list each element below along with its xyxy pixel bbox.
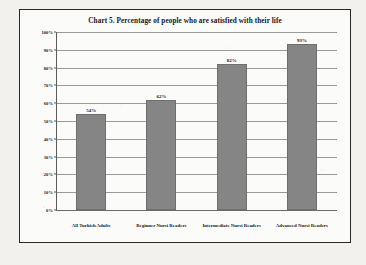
- y-axis-tick-label: 30%: [44, 154, 53, 159]
- y-axis-tick-label: 0%: [46, 208, 53, 213]
- bar: 62%: [146, 100, 176, 210]
- bar: 82%: [217, 64, 247, 210]
- chart-figure-frame: Chart 5. Percentage of people who are sa…: [19, 9, 351, 243]
- plot-area: 100%90%80%70%60%50%40%30%20%10%0% 54%62%…: [56, 32, 337, 210]
- bar-value-label: 82%: [227, 58, 237, 63]
- bar-value-label: 54%: [86, 108, 96, 113]
- bar-value-label: 62%: [156, 94, 166, 99]
- y-axis-tick-label: 20%: [44, 172, 53, 177]
- y-axis-tick-label: 100%: [42, 30, 53, 35]
- chart-title: Chart 5. Percentage of people who are sa…: [20, 17, 350, 25]
- y-axis-tick-label: 40%: [44, 136, 53, 141]
- x-axis-category-label: Advanced Nursi Readers: [267, 223, 337, 228]
- bar-slot: 54%: [56, 32, 126, 210]
- bar: 93%: [287, 44, 317, 210]
- y-axis-tick-label: 90%: [44, 47, 53, 52]
- x-axis-category-label: Beginner Nursi Readers: [126, 223, 196, 228]
- bar-slot: 62%: [126, 32, 196, 210]
- bar-slot: 93%: [267, 32, 337, 210]
- bar-value-label: 93%: [297, 38, 307, 43]
- bars-group: 54%62%82%93%: [56, 32, 337, 210]
- bar-slot: 82%: [197, 32, 267, 210]
- y-axis-tick-label: 60%: [44, 101, 53, 106]
- gridline: [56, 210, 337, 211]
- x-axis-category-label: Intermediate Nursi Readers: [197, 223, 267, 228]
- y-axis-tick-label: 50%: [44, 119, 53, 124]
- x-axis-category-label: All Turkish Adults: [56, 223, 126, 228]
- x-axis-category-labels: All Turkish AdultsBeginner Nursi Readers…: [56, 223, 337, 228]
- y-axis-tick-label: 10%: [44, 190, 53, 195]
- y-axis-tick-label: 70%: [44, 83, 53, 88]
- bar: 54%: [76, 114, 106, 210]
- y-axis-tick-label: 80%: [44, 65, 53, 70]
